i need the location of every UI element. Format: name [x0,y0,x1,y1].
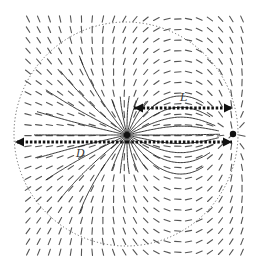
field-vector [231,154,232,160]
field-vector [242,58,243,64]
field-vector [208,186,212,191]
field-vector [144,218,148,223]
field-vector [90,91,94,96]
field-vector [123,16,126,22]
field-vector [48,249,50,255]
field-vector [70,249,71,255]
field-vector [37,27,40,33]
field-vector [154,229,159,232]
field-vector [27,249,30,255]
field-vector [144,175,148,180]
field-vector [230,27,233,33]
field-vector [217,135,223,136]
field-vector [68,176,73,180]
field-vector [219,27,223,32]
field-vector [36,146,42,147]
field-vector [38,249,40,255]
field-vector [208,218,213,222]
field-vector [143,28,148,32]
field-vector [164,209,170,211]
field-vector [208,38,213,42]
field-vector [144,207,148,212]
field-vector [196,70,202,73]
field-vector [241,228,243,234]
field-vector [154,60,159,64]
field-vector [47,197,51,202]
field-vector [123,27,126,33]
field-vector [144,49,148,54]
field-vector [185,29,191,30]
field-vector [185,241,191,242]
field-vector [47,207,51,212]
field-diagram [0,0,263,269]
field-vector [219,101,222,107]
field-vector [48,228,51,234]
field-vector [123,217,125,223]
field-vector [79,165,84,169]
field-vector [241,101,242,107]
field-vector [208,49,213,53]
field-vector [113,90,114,96]
field-vector [153,124,159,126]
field-vector [196,208,202,211]
field-vector [241,37,243,43]
field-vector [69,59,72,65]
field-vector [58,91,63,95]
field-vector [134,154,137,160]
field-vector [154,208,159,212]
field-vector [47,70,51,75]
field-vector [196,198,202,201]
field-vector [208,197,213,202]
field-vector [92,207,93,213]
field-vector [58,59,62,64]
field-vector [219,239,223,244]
field-vector [113,16,115,22]
field-vector [68,156,74,159]
field-vector [231,111,232,117]
field-vector [38,16,40,22]
field-vector [57,125,63,126]
field-vector [185,230,191,231]
field-vector [91,69,93,75]
field-vector [154,39,159,42]
field-vector [219,229,223,234]
field-vector [164,230,170,232]
field-vector [154,187,159,191]
field-vector [59,37,61,43]
field-vector [134,80,136,86]
field-vector [219,218,223,223]
field-vector [36,187,41,191]
field-vector [36,125,42,126]
field-vector [208,70,212,75]
field-vector [26,48,30,53]
field-vector [231,186,233,192]
field-vector [240,144,244,149]
field-vector [208,176,212,181]
field-vector [36,92,42,95]
field-vector [230,218,233,224]
field-vector [164,156,170,158]
field-vector [164,114,170,116]
field-vector [69,197,73,202]
field-vector [57,113,63,115]
field-vector [230,250,234,255]
field-vector [26,197,31,201]
field-vector [79,102,84,106]
field-vector [230,16,233,21]
field-vector [102,196,103,202]
field-vector [185,252,191,253]
field-vector [185,220,191,221]
field-vector [154,81,159,85]
field-vector [231,164,232,170]
field-vector [47,187,52,191]
field-vector [196,102,202,105]
field-vector [25,156,31,158]
field-vector [68,113,74,115]
field-vector [59,249,61,255]
field-vector [123,249,126,255]
field-vector [36,81,41,85]
field-vector [241,217,243,223]
field-vector [231,175,232,181]
field-vector [70,217,72,223]
field-vector [144,91,148,96]
